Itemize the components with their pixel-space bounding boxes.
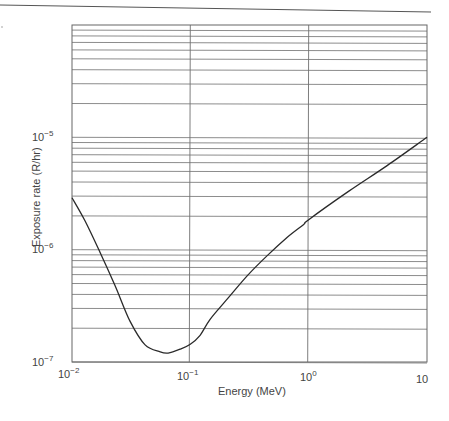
x-axis-label: Energy (MeV) xyxy=(218,385,286,397)
h-gridline xyxy=(72,284,427,285)
x-tick-1e-1: 10−1 xyxy=(177,368,199,382)
x-tick-1e-2: 10−2 xyxy=(58,366,80,380)
x-tick-10: 10 xyxy=(416,373,428,385)
h-gridline xyxy=(72,155,427,156)
y-tick-1e-7: 10−7 xyxy=(32,354,54,368)
exposure-curve xyxy=(72,137,427,353)
h-gridline xyxy=(72,182,427,183)
h-gridline xyxy=(72,171,427,172)
h-gridline xyxy=(72,59,427,60)
v-gridline xyxy=(308,25,309,362)
h-gridline xyxy=(72,261,427,262)
h-gridline xyxy=(72,255,427,256)
top-rule xyxy=(0,5,431,12)
h-gridline xyxy=(72,148,427,149)
y-tick-1e-5: 10−5 xyxy=(32,129,54,143)
x-tick-1e0: 100 xyxy=(300,369,317,383)
h-gridline xyxy=(72,36,427,37)
y-axis-label: Exposure rate (R/hr) xyxy=(30,147,42,247)
h-gridline xyxy=(72,216,427,217)
exposure-rate-chart: 10−7 10−6 10−5 10−2 10−1 100 10 Energy (… xyxy=(0,0,449,421)
h-gridline xyxy=(72,104,427,105)
page-mark xyxy=(1,26,3,28)
h-gridline xyxy=(72,84,427,85)
h-gridline xyxy=(72,250,427,251)
h-gridline xyxy=(72,137,427,138)
h-gridline xyxy=(72,143,427,144)
h-gridline xyxy=(72,70,427,71)
h-gridline xyxy=(72,30,427,31)
h-gridline xyxy=(72,275,427,276)
h-gridline xyxy=(72,50,427,51)
h-gridline xyxy=(72,328,427,329)
h-gridline xyxy=(72,162,427,163)
h-gridline xyxy=(72,267,427,268)
h-gridline xyxy=(72,42,427,43)
h-gridline xyxy=(72,196,427,197)
grid-lines xyxy=(72,25,427,363)
v-gridline xyxy=(189,25,190,362)
h-gridline xyxy=(72,294,427,295)
